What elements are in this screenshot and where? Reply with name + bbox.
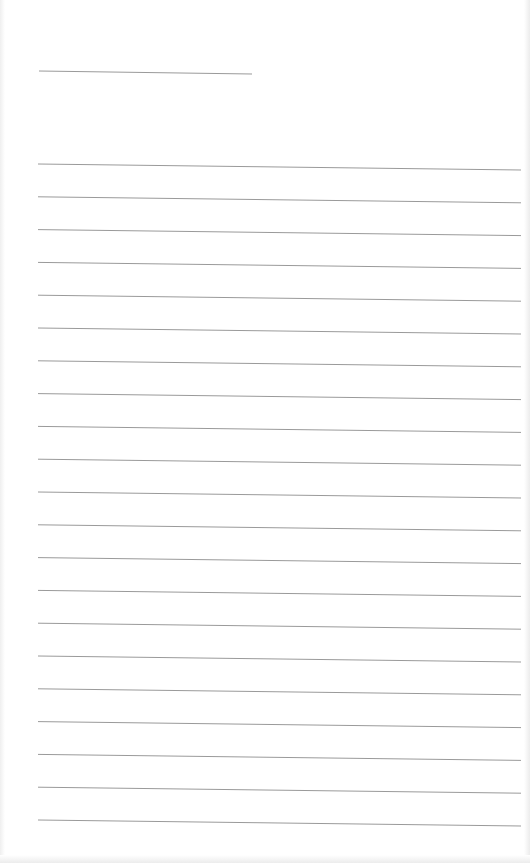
lined-paper-page xyxy=(0,0,530,863)
ruled-line xyxy=(38,722,521,728)
ruled-line xyxy=(38,525,521,531)
ruled-line xyxy=(38,459,521,465)
ruled-line xyxy=(38,820,521,826)
ruled-line xyxy=(38,689,521,695)
ruled-line xyxy=(38,623,521,629)
ruled-line xyxy=(38,590,521,596)
ruled-line xyxy=(38,164,521,170)
ruled-line xyxy=(38,656,521,662)
ruled-line xyxy=(38,262,521,268)
header-line xyxy=(39,71,252,74)
ruled-line xyxy=(38,197,521,203)
ruled-line xyxy=(38,754,521,760)
ruled-line xyxy=(38,328,521,334)
ruled-line xyxy=(38,492,521,498)
ruled-line xyxy=(38,295,521,301)
ruled-line xyxy=(38,787,521,793)
ruled-line xyxy=(38,394,521,400)
ruled-line xyxy=(38,558,521,564)
ruled-line xyxy=(38,361,521,367)
ruled-lines xyxy=(0,0,530,863)
ruled-line xyxy=(38,230,521,236)
ruled-line xyxy=(38,426,521,432)
